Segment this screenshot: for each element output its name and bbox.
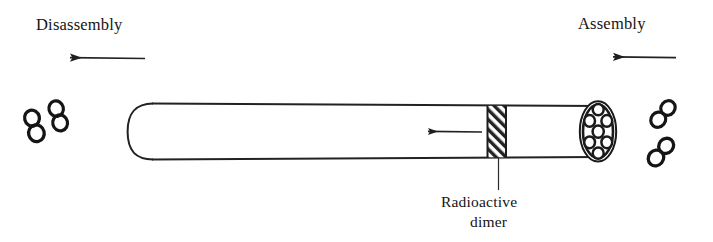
- figure-container: Disassembly Assembly Radioactive dimer: [0, 0, 713, 242]
- dimer-left-1: [23, 108, 46, 143]
- microtubule-end-cap: [580, 101, 616, 161]
- assembly-label: Assembly: [578, 14, 646, 34]
- diagram-canvas: [0, 0, 713, 242]
- radioactive-dimer-caption-line1: Radioactive: [441, 193, 517, 211]
- assembly-arrow: [613, 57, 676, 58]
- radioactive-dimer-band: [488, 106, 507, 157]
- dimer-left-group: [23, 99, 69, 143]
- dimer-right-1: [648, 98, 679, 131]
- dimer-right-2: [645, 135, 677, 169]
- radioactive-dimer-caption-line2: dimer: [470, 213, 507, 231]
- disassembly-label: Disassembly: [36, 15, 123, 35]
- disassembly-arrow: [70, 58, 145, 59]
- microtubule-cylinder: [128, 103, 599, 159]
- dimer-right-group: [645, 98, 678, 170]
- dimer-left-2: [47, 99, 69, 132]
- internal-flow-arrow: [428, 131, 482, 132]
